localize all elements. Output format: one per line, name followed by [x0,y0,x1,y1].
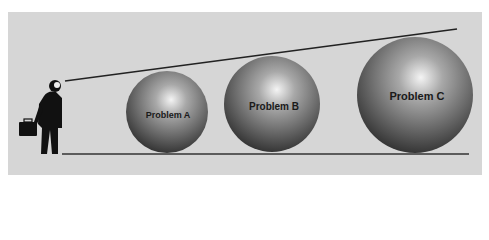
ball-label-problem-a: Problem A [146,110,191,120]
businessman-with-briefcase-icon [19,80,62,154]
ball-label-problem-c: Problem C [389,90,444,102]
ball-label-problem-b: Problem B [249,101,299,112]
